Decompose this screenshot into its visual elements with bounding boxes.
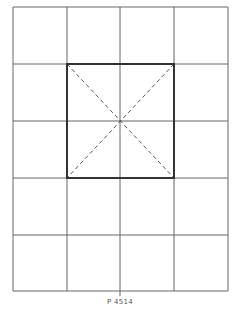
grid-lines xyxy=(13,7,228,291)
grid-diagram xyxy=(0,0,240,311)
figure-caption: P 4514 xyxy=(0,298,240,306)
